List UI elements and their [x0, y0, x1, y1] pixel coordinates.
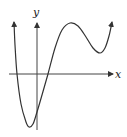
function-graph: x y: [0, 0, 127, 137]
y-axis-label: y: [32, 6, 40, 19]
x-axis-label: x: [115, 68, 122, 81]
function-curve: [14, 22, 112, 127]
